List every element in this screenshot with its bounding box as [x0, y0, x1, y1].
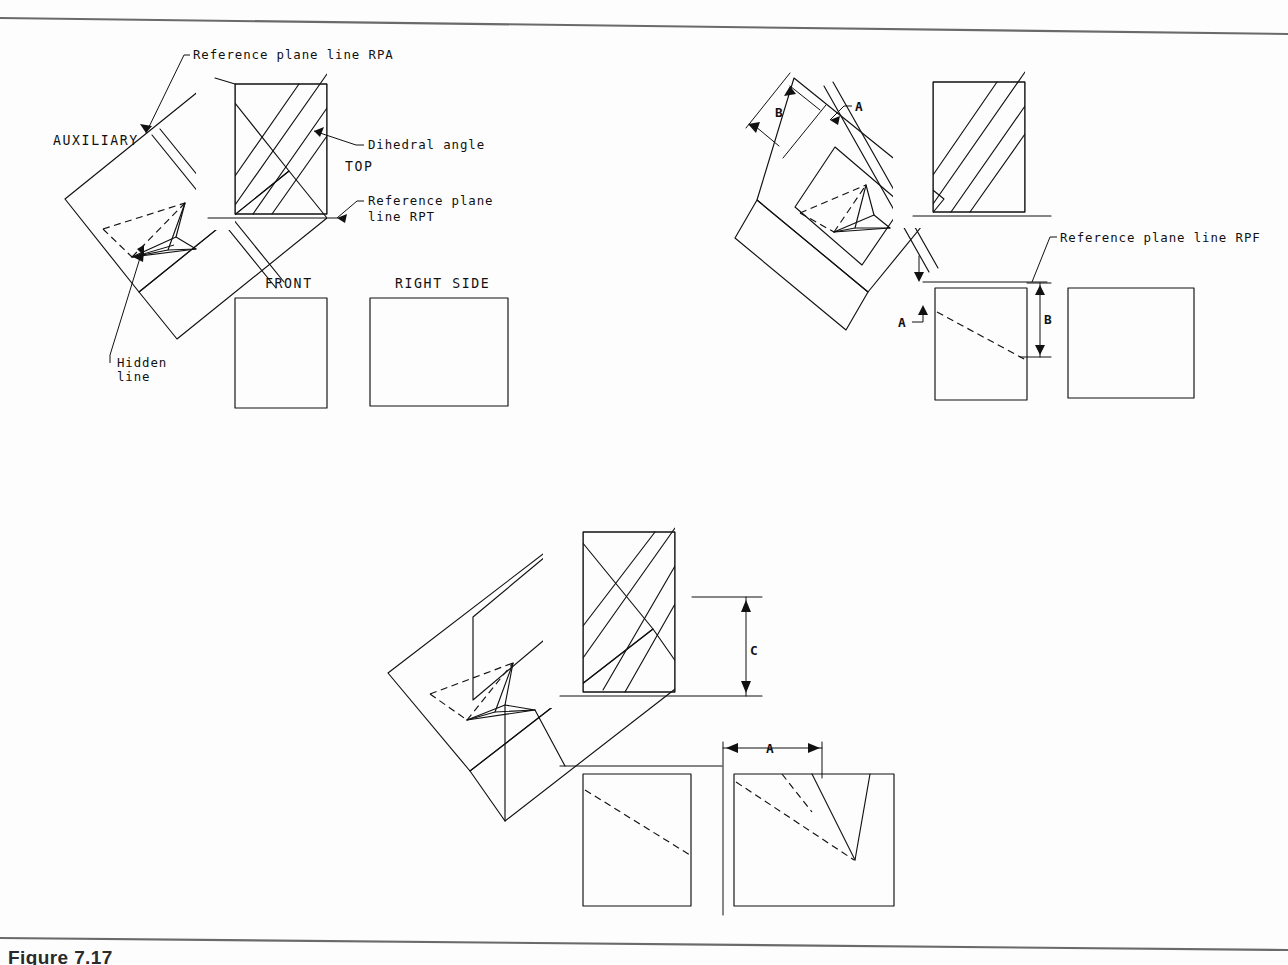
label-hidden-line-1: Hidden [117, 355, 167, 370]
figure2-top-view [893, 58, 1065, 228]
figure3-auxiliary-pictorial [388, 531, 688, 821]
label-front-view: FRONT [265, 276, 313, 291]
label-auxiliary: AUXILIARY [53, 133, 139, 148]
figure2-dimension-b-front: B [1020, 283, 1052, 357]
figure2-dimension-a-front: A [898, 305, 928, 330]
label-reference-plane-rpt-2: line RPT [368, 209, 435, 224]
figure-caption: Figure 7.17 [8, 947, 113, 965]
label-dim-b-auxiliary: B [775, 105, 783, 120]
label-dim-b-front: B [1044, 312, 1052, 327]
label-reference-plane-rpt-1: Reference plane [368, 193, 493, 208]
figure2-front-view [935, 288, 1027, 400]
label-dihedral-angle: Dihedral angle [368, 137, 485, 152]
label-reference-plane-rpa: Reference plane line RPA [193, 47, 394, 62]
figure3-group: C A [388, 508, 894, 915]
label-reference-plane-rpf: Reference plane line RPF [1060, 230, 1261, 245]
figure1-top-view [196, 60, 367, 230]
figure2-dimension-b-auxiliary: B [746, 73, 826, 158]
technical-drawing-canvas: Reference plane line RPA AUXILIARY Dihed… [0, 0, 1288, 965]
label-dim-a-front: A [898, 315, 906, 330]
bottom-page-rule [0, 938, 1288, 950]
label-dim-a: A [766, 741, 774, 756]
figure3-dimension-a: A [723, 741, 822, 915]
figure2-group: B A Reference plane lin [735, 58, 1261, 400]
label-top-view: TOP [345, 159, 374, 174]
figure2-right-side-view [1068, 288, 1194, 398]
figure3-front-view [583, 774, 691, 906]
figure1-right-side-view [370, 298, 508, 406]
label-hidden-line-2: line [117, 369, 150, 384]
label-right-side-view: RIGHT SIDE [395, 276, 490, 291]
label-dim-a-auxiliary: A [855, 99, 863, 114]
label-dim-c: C [750, 643, 758, 658]
figure3-front-hidden-line [585, 790, 690, 855]
drawing-page: Reference plane line RPA AUXILIARY Dihed… [0, 0, 1288, 965]
figure2-front-hidden-line [937, 312, 1026, 360]
top-page-rule [0, 18, 1288, 34]
figure3-top-view [543, 508, 762, 708]
figure3-right-side-view [734, 774, 894, 906]
figure1-front-view [235, 298, 327, 408]
figure1-group: Reference plane line RPA AUXILIARY Dihed… [53, 47, 508, 408]
